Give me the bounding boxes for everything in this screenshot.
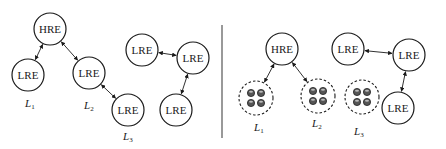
sensor-highlight	[355, 90, 359, 92]
node-lre: LRE	[393, 39, 425, 71]
diagram-canvas: HRELRELRELRELRELRELREL1L2L3 HRELRELRELRE…	[0, 0, 446, 149]
sensor-highlight	[249, 101, 253, 103]
node-label: LRE	[166, 104, 187, 116]
sensor-node-icon	[257, 99, 264, 106]
node-label: LRE	[18, 69, 39, 81]
sensor-node-icon	[309, 87, 316, 94]
node-lre: LRE	[12, 59, 44, 91]
sensor-highlight	[355, 100, 359, 102]
sensor-highlight	[259, 91, 263, 93]
sensor-highlight	[311, 89, 315, 91]
sensor-cluster	[239, 81, 273, 115]
node-label: LRE	[399, 49, 420, 61]
sensor-node-icon	[353, 98, 360, 105]
sensor-highlight	[249, 91, 253, 93]
level-label: L3	[122, 130, 133, 144]
node-lre: LRE	[332, 33, 364, 65]
node-lre: LRE	[382, 92, 414, 124]
node-hre: HRE	[266, 33, 298, 65]
node-label: LRE	[132, 44, 153, 56]
sensor-node-icon	[319, 87, 326, 94]
sensor-highlight	[321, 99, 325, 101]
node-label: LRE	[118, 104, 139, 116]
node-lre: LRE	[160, 94, 192, 126]
sensor-node-icon	[257, 89, 264, 96]
node-label: HRE	[39, 23, 61, 35]
cluster-boundary	[301, 79, 335, 113]
sensor-node-icon	[363, 88, 370, 95]
sensor-node-icon	[247, 89, 254, 96]
sensor-highlight	[311, 99, 315, 101]
sensor-cluster	[301, 79, 335, 113]
cluster-boundary	[345, 80, 379, 114]
node-hre: HRE	[34, 13, 66, 45]
bidirectional-arrow	[401, 72, 405, 92]
bidirectional-arrow	[181, 74, 187, 94]
sensor-node-icon	[309, 97, 316, 104]
node-label: LRE	[183, 52, 204, 64]
left-panel: HRELRELRELRELRELRELREL1L2L3	[12, 13, 209, 144]
right-panel: HRELRELRELREL1L2L3	[239, 33, 425, 139]
node-label: LRE	[79, 67, 100, 79]
node-label: LRE	[388, 102, 409, 114]
sensor-highlight	[321, 89, 325, 91]
node-label: LRE	[338, 43, 359, 55]
node-label: HRE	[271, 43, 293, 55]
node-lre: LRE	[73, 57, 105, 89]
node-lre: LRE	[177, 42, 209, 74]
level-label: L2	[311, 117, 322, 131]
sensor-highlight	[365, 90, 369, 92]
bidirectional-arrow	[264, 64, 274, 82]
level-label: L1	[24, 97, 35, 111]
sensor-node-icon	[353, 88, 360, 95]
sensor-node-icon	[363, 98, 370, 105]
node-lre: LRE	[112, 94, 144, 126]
level-label: L1	[253, 121, 264, 135]
sensor-node-icon	[319, 97, 326, 104]
sensor-highlight	[259, 101, 263, 103]
level-label: L2	[83, 99, 94, 113]
level-label: L3	[353, 125, 364, 139]
sensor-node-icon	[247, 99, 254, 106]
sensor-cluster	[345, 80, 379, 114]
bidirectional-arrow	[61, 42, 77, 61]
bidirectional-arrow	[159, 53, 176, 56]
sensor-highlight	[365, 100, 369, 102]
bidirectional-arrow	[101, 85, 115, 99]
node-lre: LRE	[126, 34, 158, 66]
cluster-boundary	[239, 81, 273, 115]
bidirectional-arrow	[292, 62, 307, 81]
bidirectional-arrow	[35, 44, 42, 59]
bidirectional-arrow	[365, 51, 392, 54]
